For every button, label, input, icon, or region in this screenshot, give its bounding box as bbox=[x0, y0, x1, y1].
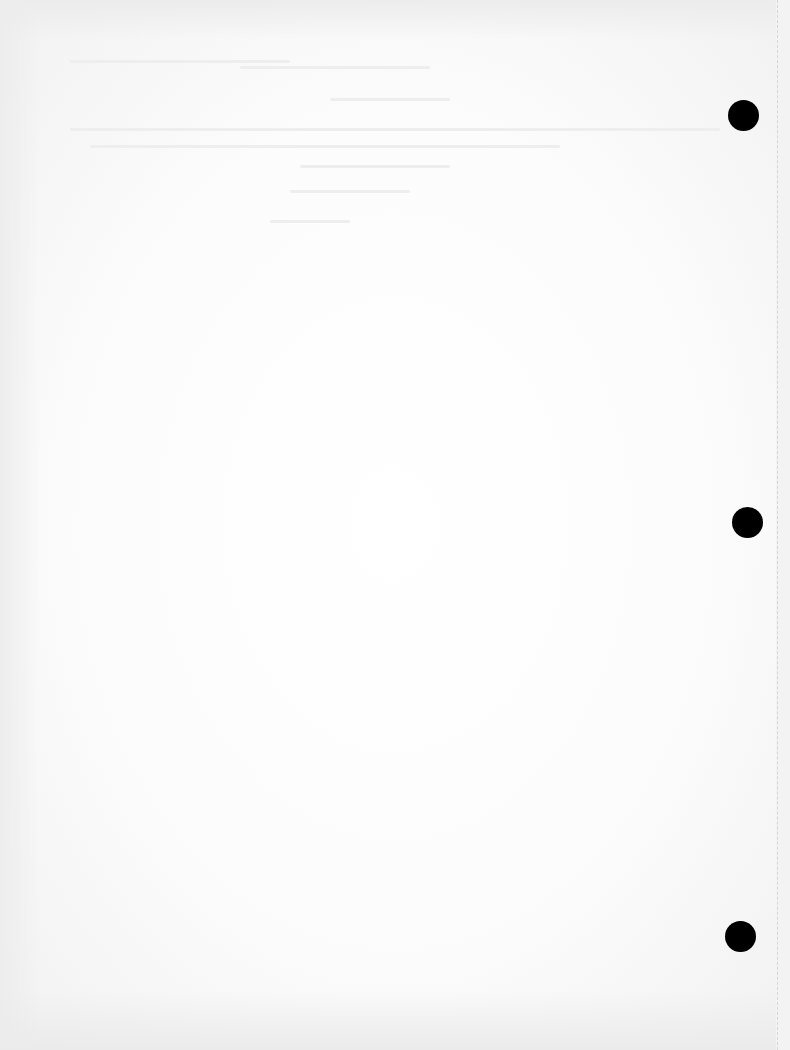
bleed-through-line bbox=[240, 66, 430, 69]
scan-shadow-left bbox=[0, 0, 40, 1050]
bleed-through-line bbox=[270, 220, 350, 223]
bleed-through-line bbox=[300, 165, 450, 168]
scan-shadow-bottom bbox=[0, 990, 790, 1050]
punch-hole-bottom bbox=[725, 921, 756, 952]
bleed-through-line bbox=[90, 145, 560, 148]
scanned-page bbox=[0, 0, 790, 1050]
bleed-through-line bbox=[290, 190, 410, 193]
bleed-through-line bbox=[70, 60, 290, 63]
scan-shadow-top bbox=[0, 0, 790, 40]
bleed-through-line bbox=[330, 98, 450, 101]
punch-hole-middle bbox=[732, 507, 763, 538]
bleed-through-line bbox=[70, 128, 720, 131]
page-edge-strip bbox=[776, 0, 790, 1050]
punch-hole-top bbox=[728, 100, 759, 131]
perforation-line bbox=[777, 0, 778, 1050]
